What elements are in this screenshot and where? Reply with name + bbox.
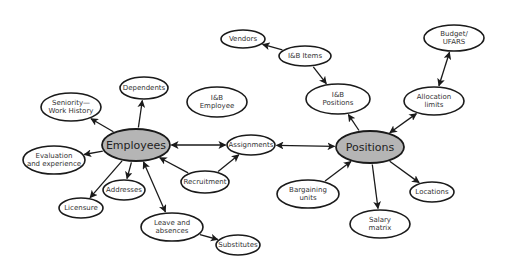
node-label: Evaluation — [36, 152, 73, 160]
node-label: I&B — [332, 91, 345, 99]
node-evaluation: Evaluationand experience — [23, 146, 85, 174]
node-label: limits — [424, 101, 443, 109]
edge-employees-to-evaluation-arrow-icon — [84, 151, 103, 154]
node-label: Recruitment — [183, 178, 226, 186]
node-label: Employees — [106, 139, 166, 152]
node-label: Work History — [49, 107, 94, 115]
node-label: I&B — [211, 94, 224, 102]
edge-employees-to-dependents-arrow-icon — [138, 101, 142, 128]
node-positions: Positions — [336, 131, 404, 163]
node-salary: Salarymatrix — [350, 210, 410, 238]
edge-ib-items-to-ib-positions-arrow-icon — [313, 67, 326, 84]
edge-recruitment-to-assignments-arrow-icon — [218, 155, 239, 172]
node-licensure: Licensure — [59, 198, 103, 218]
node-seniority: Seniority—Work History — [41, 93, 101, 121]
edge-ib-items-to-vendors-arrow-icon — [263, 44, 283, 49]
node-label: Budget/ — [440, 30, 468, 38]
node-ib-items: I&B Items — [279, 46, 331, 66]
edge-positions-to-ib-positions-arrow-icon — [348, 115, 359, 131]
edge-recruitment-to-employees-arrow-icon — [160, 158, 188, 173]
node-addresses: Addresses — [103, 180, 145, 200]
node-label: Bargaining — [289, 186, 327, 194]
edge-employees-to-seniority-arrow-icon — [91, 119, 113, 132]
node-label: Locations — [415, 188, 449, 196]
edge-bargaining-to-positions-arrow-icon — [325, 162, 351, 182]
node-label: Vendors — [229, 35, 258, 43]
node-label: Employee — [200, 102, 235, 110]
node-label: Dependents — [123, 84, 166, 92]
node-vendors: Vendors — [221, 30, 265, 48]
node-label: Licensure — [64, 204, 98, 212]
edge-allocation-to-budget-arrow-icon — [439, 52, 450, 85]
node-label: Positions — [346, 141, 395, 154]
node-leave: Leave andabsences — [141, 213, 203, 241]
node-employees: Employees — [102, 129, 170, 161]
node-label: and experience — [27, 160, 81, 168]
edge-employees-to-leave-arrow-icon — [144, 162, 166, 212]
node-label: Addresses — [106, 186, 142, 194]
node-substitutes: Substitutes — [216, 235, 260, 255]
edge-employees-to-addresses-arrow-icon — [127, 162, 131, 178]
node-bargaining: Bargainingunits — [277, 180, 339, 208]
node-recruitment: Recruitment — [181, 171, 229, 193]
node-budget: Budget/UFARS — [424, 25, 484, 51]
nodes-layer: EmployeesPositionsSeniority—Work History… — [23, 25, 484, 255]
node-ib-employee: I&BEmployee — [187, 87, 247, 117]
edge-positions-to-salary-arrow-icon — [372, 165, 378, 209]
edge-leave-to-substitutes-arrow-icon — [200, 235, 218, 240]
node-label: Assignments — [229, 141, 274, 149]
edge-assignments-to-positions-arrow-icon — [277, 145, 335, 146]
node-allocation: Allocationlimits — [404, 87, 464, 115]
node-locations: Locations — [410, 182, 454, 202]
edge-positions-to-allocation-arrow-icon — [390, 114, 417, 133]
concept-diagram: EmployeesPositionsSeniority—Work History… — [0, 0, 506, 269]
node-assignments: Assignments — [227, 135, 275, 155]
node-label: units — [299, 194, 317, 202]
node-label: UFARS — [443, 38, 466, 46]
node-label: Seniority— — [52, 99, 90, 107]
node-label: Substitutes — [218, 241, 258, 249]
diagram-svg: EmployeesPositionsSeniority—Work History… — [0, 0, 506, 269]
node-label: Allocation — [417, 93, 452, 101]
node-label: Leave and — [154, 219, 190, 227]
node-label: I&B Items — [288, 52, 322, 60]
node-label: Positions — [323, 99, 354, 107]
node-label: absences — [156, 227, 189, 235]
node-label: Salary — [369, 216, 391, 224]
node-dependents: Dependents — [120, 77, 168, 99]
edge-positions-to-locations-arrow-icon — [390, 161, 419, 182]
node-ib-positions: I&BPositions — [306, 84, 370, 114]
node-label: matrix — [369, 224, 392, 232]
